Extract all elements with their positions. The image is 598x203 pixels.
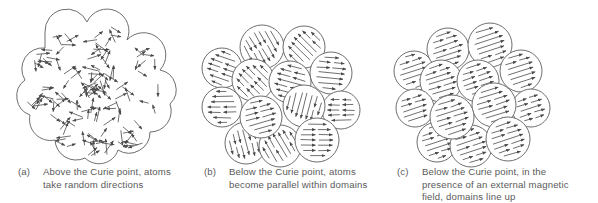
magnetic-domain (202, 87, 242, 127)
caption-b-tag: (b) (204, 166, 216, 179)
atom-arrow (106, 108, 116, 109)
panel-b-domains (202, 25, 360, 167)
panel-c-aligned-domains (394, 23, 550, 167)
magnetic-domain (396, 89, 434, 127)
atom-arrow (343, 110, 355, 111)
magnetic-domain (295, 118, 339, 162)
caption-b-line-2: become parallel within domains (229, 179, 367, 192)
caption-c-line-2: presence of an external magnetic (422, 179, 569, 192)
caption-a-line-1: Above the Curie point, atoms (43, 166, 171, 179)
magnetic-domain (500, 50, 542, 92)
atom-arrow (212, 96, 232, 97)
caption-b-line-1: Below the Curie point, atoms (229, 166, 367, 179)
domain-boundary (430, 95, 474, 139)
domain-boundary (240, 96, 282, 138)
magnetic-domain (310, 52, 352, 94)
caption-a-line-2: take random directions (43, 179, 171, 192)
atom-arrow (301, 140, 316, 141)
atom-arrow (328, 115, 340, 116)
caption-c-line-1: Below the Curie point, in the (422, 166, 569, 179)
caption-a-tag: (a) (18, 166, 30, 179)
magnetic-domain (430, 95, 474, 139)
caption-c-tag: (c) (397, 166, 409, 179)
magnetic-domain (240, 96, 282, 138)
caption-c-line-3: field, domains line up (422, 191, 569, 203)
panel-a-random-atoms (17, 9, 176, 164)
magnetic-domain (486, 117, 530, 161)
atom-arrow (343, 115, 355, 116)
